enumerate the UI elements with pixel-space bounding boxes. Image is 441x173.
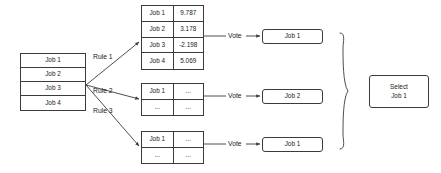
table-row: Job 1 ... — [142, 132, 203, 148]
job-cell: ... — [142, 100, 173, 116]
score-cell: ... — [173, 84, 204, 99]
table-row: Job 3 — [21, 82, 85, 96]
table-row: Job 1 9.787 — [142, 6, 203, 22]
table-row: ... ... — [142, 148, 203, 164]
table-row: Job 4 — [21, 96, 85, 110]
rule-label-1: Rule 1 — [93, 54, 113, 61]
job-cell: Job 1 — [21, 54, 85, 67]
job-cell: Job 2 — [142, 22, 173, 37]
table-row: Job 2 3.178 — [142, 22, 203, 38]
table-row: Job 1 ... — [142, 84, 203, 100]
table-row: Job 4 5.069 — [142, 53, 203, 69]
vote-result-2: Job 2 — [262, 89, 323, 104]
job-cell: Job 1 — [142, 6, 173, 21]
rule-2-score-table: Job 1 ... ... ... — [141, 83, 204, 116]
score-cell: 9.787 — [173, 6, 204, 21]
voting-flow-diagram: Job 1 Job 2 Job 3 Job 4 Rule 1 Rule 2 Ru… — [0, 0, 441, 173]
score-cell: -2.198 — [173, 38, 204, 53]
job-cell: ... — [142, 148, 173, 164]
job-cell: Job 1 — [142, 84, 173, 99]
score-cell: 5.069 — [173, 53, 204, 69]
vote-result-3: Job 1 — [262, 137, 323, 152]
table-to-vote-lines — [204, 36, 226, 144]
vote-label-1: Vote — [228, 33, 242, 40]
arrow-source-to-rule-1 — [86, 42, 139, 85]
job-cell: Job 4 — [21, 96, 85, 110]
score-cell: ... — [173, 100, 204, 116]
aggregation-brace — [340, 33, 348, 149]
table-row: Job 1 — [21, 54, 85, 68]
score-cell: 3.178 — [173, 22, 204, 37]
job-cell: Job 4 — [142, 53, 173, 69]
rule-1-score-table: Job 1 9.787 Job 2 3.178 Job 3 -2.198 Job… — [141, 5, 204, 70]
job-cell: Job 3 — [142, 38, 173, 53]
rule-label-2: Rule 2 — [93, 88, 113, 95]
final-decision-box: Select Job 1 — [369, 75, 429, 108]
job-cell: Job 1 — [142, 132, 173, 147]
job-cell: Job 3 — [21, 82, 85, 95]
vote-label-2: Vote — [228, 93, 242, 100]
table-row: Job 2 — [21, 68, 85, 82]
job-cell: Job 2 — [21, 68, 85, 81]
candidate-job-list: Job 1 Job 2 Job 3 Job 4 — [20, 53, 86, 111]
rule-label-3: Rule 3 — [93, 108, 113, 115]
score-cell: ... — [173, 148, 204, 164]
vote-to-result-arrows — [246, 36, 260, 144]
table-row: Job 3 -2.198 — [142, 38, 203, 54]
vote-result-1: Job 1 — [262, 29, 323, 44]
table-row: ... ... — [142, 100, 203, 116]
vote-label-3: Vote — [228, 141, 242, 148]
rule-3-score-table: Job 1 ... ... ... — [141, 131, 204, 164]
score-cell: ... — [173, 132, 204, 147]
